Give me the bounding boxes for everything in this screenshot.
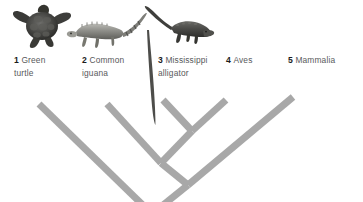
taxon-label-1: 1Green turtle: [14, 54, 76, 79]
taxon-number-3: 3: [158, 55, 163, 65]
taxon-number-4: 4: [226, 55, 231, 65]
taxon-name-3-line2: alligator: [158, 68, 189, 78]
taxon-name-5-line1: Mammalia: [295, 55, 335, 65]
taxon-name-1-line1: Green: [21, 55, 45, 65]
taxon-name-2-line2: iguana: [82, 68, 108, 78]
taxon-label-2: 2Common iguana: [82, 54, 150, 79]
taxon-name-1-line2: turtle: [14, 68, 34, 78]
taxon-number-5: 5: [288, 55, 293, 65]
taxon-name-2-line1: Common: [89, 55, 124, 65]
taxon-number-1: 1: [14, 55, 19, 65]
taxon-name-3-line1: Mississippi: [165, 55, 207, 65]
taxon-label-3: 3Mississippi alligator: [158, 54, 224, 79]
taxon-label-5: 5Mammalia: [288, 54, 362, 67]
cladogram-diagram: 1Green turtle 2Common iguana 3Mississipp…: [0, 0, 363, 202]
taxon-number-2: 2: [82, 55, 87, 65]
taxon-name-4-line1: Aves: [233, 55, 252, 65]
taxon-label-4: 4Aves: [226, 54, 278, 67]
